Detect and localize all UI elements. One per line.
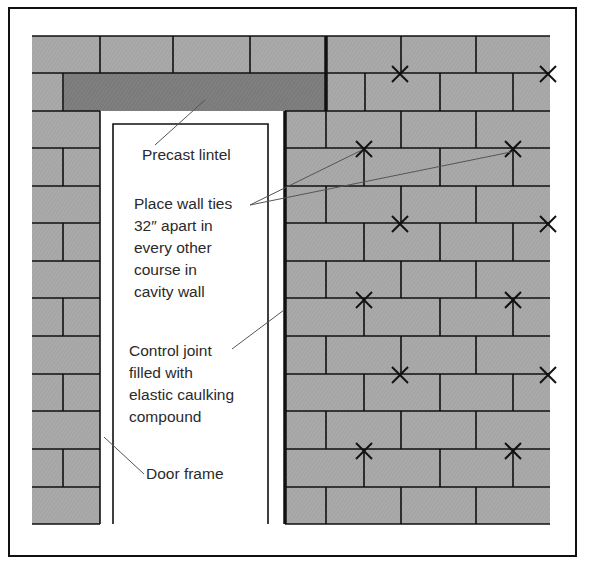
leader-control-joint [232, 310, 284, 349]
diagram-stage: Precast lintel Place wall ties 32″ apart… [0, 0, 590, 570]
label-control-joint: Control joint filled with elastic caulki… [129, 340, 234, 428]
wall-diagram [0, 0, 590, 570]
leader-door-frame [104, 437, 144, 474]
label-door-frame: Door frame [146, 463, 224, 485]
label-wall-ties: Place wall ties 32″ apart in every other… [134, 193, 232, 303]
precast-lintel [64, 73, 327, 111]
label-precast-lintel: Precast lintel [142, 144, 231, 166]
